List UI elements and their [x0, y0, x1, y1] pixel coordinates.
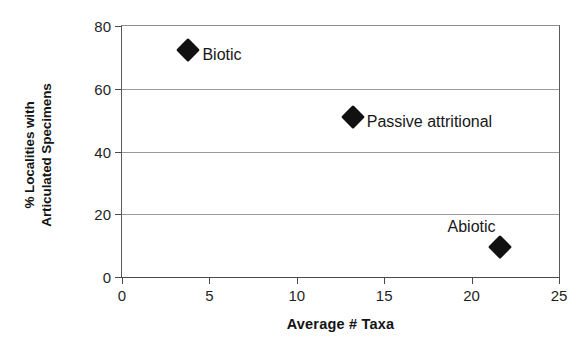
y-axis-tick-label: 60 — [94, 80, 111, 97]
scatter-chart-figure: % Localities with Articulated Specimens … — [0, 0, 588, 363]
data-point-label: Passive attritional — [367, 113, 492, 131]
data-point-label: Biotic — [202, 46, 241, 64]
x-axis-tick — [472, 277, 473, 284]
gridline-y — [122, 89, 559, 90]
data-point-marker[interactable] — [488, 235, 512, 259]
x-axis-tick-label: 10 — [288, 287, 305, 304]
x-axis-tick-label: 0 — [118, 287, 126, 304]
data-point-marker[interactable] — [176, 38, 200, 62]
x-axis-tick-label: 15 — [376, 287, 393, 304]
y-axis-tick-label: 0 — [103, 269, 111, 286]
x-axis-title: Average # Taxa — [121, 316, 560, 332]
x-axis-tick — [384, 277, 385, 284]
y-axis-title-line-2: Articulated Specimens — [39, 83, 54, 226]
x-axis-tick — [297, 277, 298, 284]
x-axis-tick-label: 20 — [463, 287, 480, 304]
y-axis-tick — [115, 89, 122, 90]
gridline-y — [122, 214, 559, 215]
x-axis-tick — [559, 277, 560, 284]
y-axis-tick-label: 80 — [94, 18, 111, 35]
y-axis-tick-label: 20 — [94, 206, 111, 223]
y-axis-title-line-1: % Localities with — [22, 101, 37, 208]
data-point-marker[interactable] — [341, 105, 365, 129]
y-axis-title-container: % Localities with Articulated Specimens — [8, 30, 68, 280]
x-axis-tick-label: 5 — [205, 287, 213, 304]
gridline-y — [122, 152, 559, 153]
x-axis-tick — [122, 277, 123, 284]
y-axis-tick — [115, 277, 122, 278]
x-axis-tick — [209, 277, 210, 284]
x-axis-tick-label: 25 — [551, 287, 568, 304]
y-axis-tick-label: 40 — [94, 143, 111, 160]
data-point-label: Abiotic — [448, 218, 496, 236]
plot-area: 0204060800510152025BioticPassive attriti… — [121, 25, 560, 278]
y-axis-tick — [115, 214, 122, 215]
y-axis-title: % Localities with Articulated Specimens — [21, 83, 55, 226]
y-axis-tick — [115, 26, 122, 27]
y-axis-tick — [115, 152, 122, 153]
